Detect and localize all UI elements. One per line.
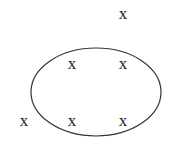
- x-mark-inside-top-right: x: [119, 54, 128, 73]
- x-mark-inside-top-left: x: [68, 54, 77, 73]
- set-diagram: x x x x x x: [0, 0, 174, 141]
- x-mark-inside-bottom-right: x: [119, 111, 128, 130]
- set-ellipse: [31, 48, 161, 136]
- x-mark-outside-left: x: [20, 111, 29, 130]
- x-mark-inside-bottom-left: x: [68, 111, 77, 130]
- x-mark-outside-top: x: [119, 4, 128, 23]
